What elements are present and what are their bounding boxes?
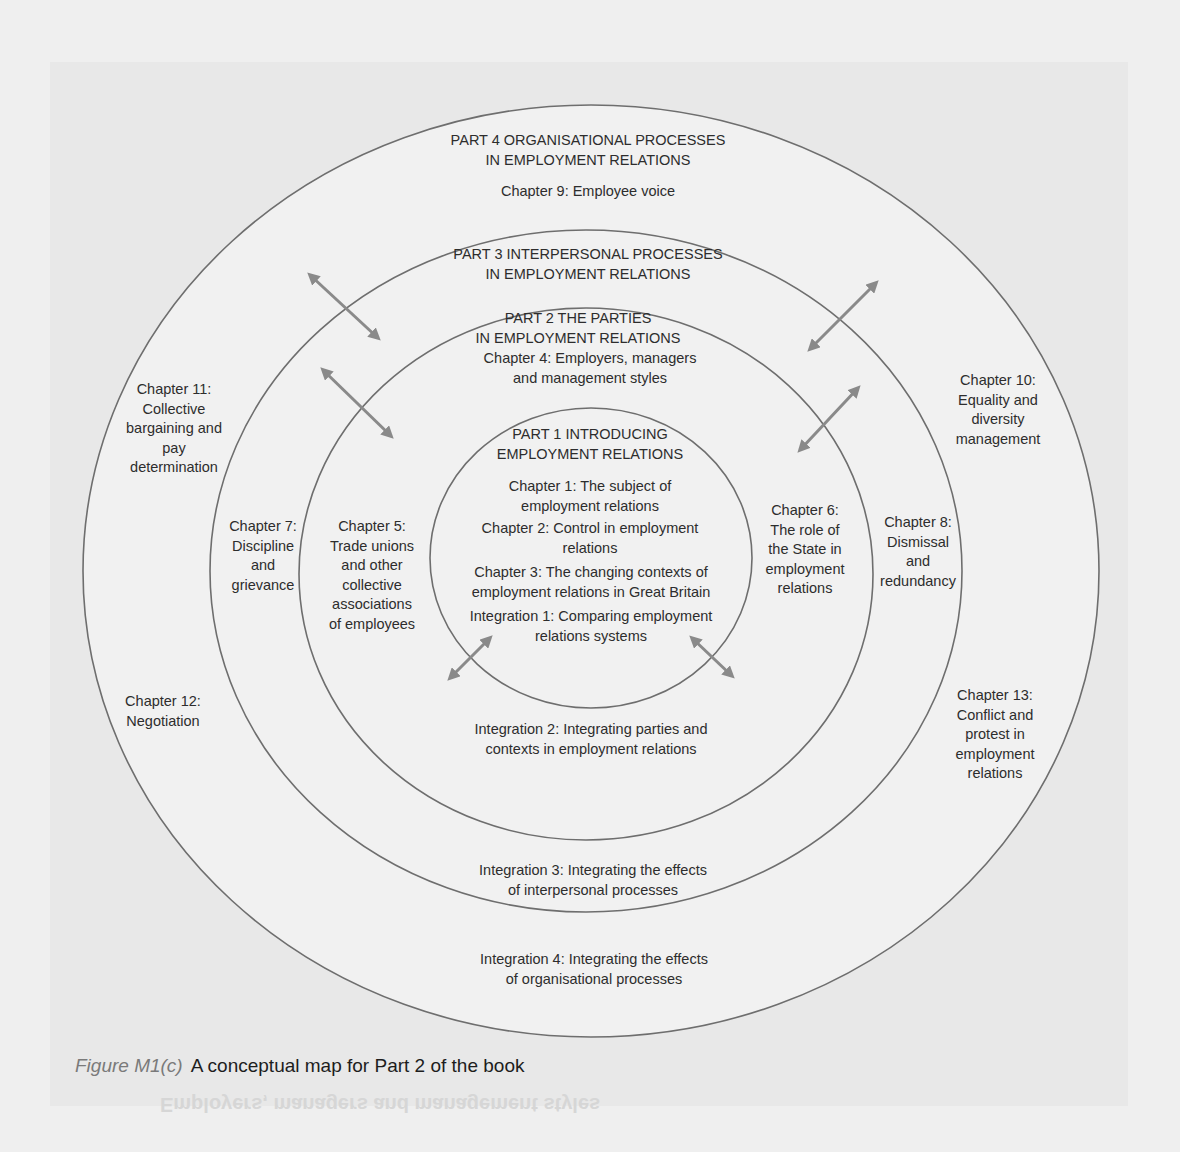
integration4-label: Integration 4: Integrating the effects o…: [480, 950, 708, 989]
chapter1-label: Chapter 1: The subject of employment rel…: [509, 477, 672, 516]
chapter10-label: Chapter 10: Equality and diversity manag…: [956, 371, 1041, 449]
chapter11-label: Chapter 11: Collective bargaining and pa…: [126, 380, 222, 478]
part3-title: PART 3 INTERPERSONAL PROCESSES IN EMPLOY…: [453, 245, 722, 284]
figure-caption: Figure M1(c)A conceptual map for Part 2 …: [75, 1055, 524, 1077]
figure-label: Figure M1(c): [75, 1055, 183, 1076]
chapter13-label: Chapter 13: Conflict and protest in empl…: [956, 686, 1035, 784]
integration3-label: Integration 3: Integrating the effects o…: [479, 861, 707, 900]
part2-title: PART 2 THE PARTIES IN EMPLOYMENT RELATIO…: [476, 309, 681, 348]
integration1-label: Integration 1: Comparing employment rela…: [470, 607, 713, 646]
chapter9-label: Chapter 9: Employee voice: [501, 182, 675, 202]
chapter3-label: Chapter 3: The changing contexts of empl…: [472, 563, 711, 602]
part4-title: PART 4 ORGANISATIONAL PROCESSES IN EMPLO…: [451, 131, 726, 170]
chapter6-label: Chapter 6: The role of the State in empl…: [766, 501, 845, 599]
chapter12-label: Chapter 12: Negotiation: [125, 692, 201, 731]
caption-text: A conceptual map for Part 2 of the book: [191, 1055, 525, 1076]
chapter5-label: Chapter 5: Trade unions and other collec…: [329, 517, 415, 634]
part1-title: PART 1 INTRODUCING EMPLOYMENT RELATIONS: [497, 425, 683, 464]
bleed-through-text: Employers, managers and management style…: [160, 1093, 600, 1116]
chapter7-label: Chapter 7: Discipline and grievance: [229, 517, 297, 595]
chapter2-label: Chapter 2: Control in employment relatio…: [482, 519, 699, 558]
integration2-label: Integration 2: Integrating parties and c…: [475, 720, 708, 759]
chapter8-label: Chapter 8: Dismissal and redundancy: [880, 513, 956, 591]
chapter4-label: Chapter 4: Employers, managers and manag…: [484, 349, 697, 388]
